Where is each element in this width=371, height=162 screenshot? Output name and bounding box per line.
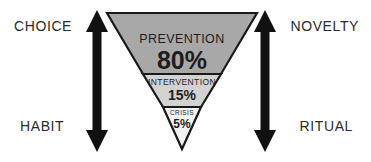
corner-label-novelty: NOVELTY bbox=[290, 18, 359, 34]
inverted-pyramid-chart: PREVENTION 80% INTERVENTION 15% CRISIS 5… bbox=[104, 8, 260, 154]
corner-label-choice: CHOICE bbox=[14, 18, 72, 34]
corner-label-ritual: RITUAL bbox=[300, 118, 353, 134]
tier-segment-intervention bbox=[143, 74, 221, 107]
tier-segment-crisis bbox=[163, 107, 201, 149]
inverted-pyramid-svg bbox=[104, 8, 260, 154]
tier-segment-prevention bbox=[107, 13, 257, 74]
diagram-canvas: CHOICE NOVELTY HABIT RITUAL PREVENTION 8… bbox=[0, 0, 371, 162]
corner-label-habit: HABIT bbox=[20, 118, 64, 134]
